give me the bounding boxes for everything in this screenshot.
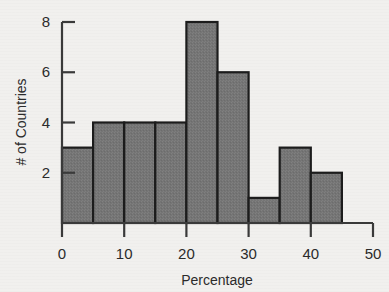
- histogram-chart: 2468 01020304050 Percentage # of Countri…: [0, 0, 389, 292]
- x-axis-tick-label: 50: [365, 245, 382, 262]
- x-axis-tick-labels: 01020304050: [58, 245, 382, 262]
- histogram-bar: [280, 148, 311, 223]
- y-axis-tick-labels: 2468: [42, 13, 50, 181]
- histogram-bar: [186, 22, 217, 223]
- histogram-bar: [218, 72, 249, 223]
- bars-group: [62, 22, 342, 223]
- y-axis-title: # of Countries: [13, 78, 29, 165]
- x-axis-ticks: [62, 223, 373, 237]
- y-axis-tick-label: 2: [42, 164, 50, 181]
- x-axis-tick-label: 10: [116, 245, 133, 262]
- x-axis-tick-label: 30: [240, 245, 257, 262]
- x-axis-tick-label: 20: [178, 245, 195, 262]
- x-axis-tick-label: 0: [58, 245, 66, 262]
- histogram-bar: [62, 148, 93, 223]
- histogram-bar: [124, 123, 155, 224]
- chart-page: 2468 01020304050 Percentage # of Countri…: [0, 0, 389, 292]
- histogram-bar: [155, 123, 186, 224]
- x-axis-title: Percentage: [181, 272, 253, 288]
- histogram-bar: [311, 173, 342, 223]
- x-axis-tick-label: 40: [302, 245, 319, 262]
- y-axis-tick-label: 8: [42, 13, 50, 30]
- y-axis-tick-label: 4: [42, 114, 50, 131]
- histogram-bar: [249, 198, 280, 223]
- y-axis-tick-label: 6: [42, 63, 50, 80]
- histogram-bar: [93, 123, 124, 224]
